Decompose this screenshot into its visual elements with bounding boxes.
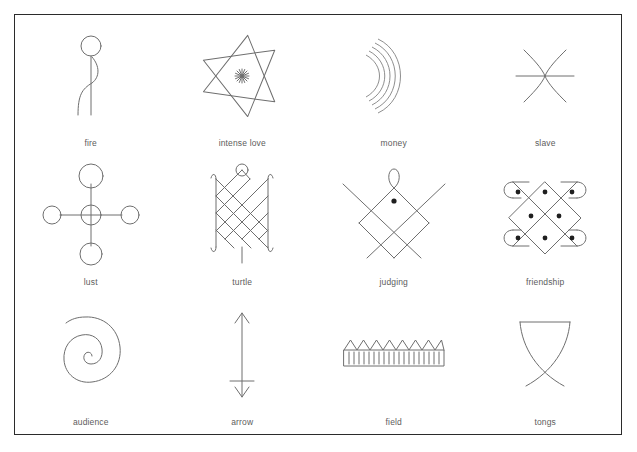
symbol-label: audience: [73, 416, 109, 430]
money-icon: [318, 15, 470, 137]
slave-icon: [470, 15, 622, 137]
arrow-icon: [167, 294, 319, 416]
symbol-label: slave: [535, 137, 556, 151]
symbol-label: lust: [84, 276, 98, 290]
symbol-cell-arrow: arrow: [167, 294, 319, 434]
symbol-label: intense love: [219, 137, 266, 151]
field-icon: [318, 294, 470, 416]
symbol-label: tongs: [534, 416, 556, 430]
symbol-cell-intense-love: intense love: [167, 15, 319, 155]
symbol-label: arrow: [231, 416, 253, 430]
fire-icon: [15, 15, 167, 137]
audience-icon: [15, 294, 167, 416]
symbol-grid: fire: [15, 15, 621, 434]
symbol-label: turtle: [232, 276, 252, 290]
symbol-cell-money: money: [318, 15, 470, 155]
symbol-label: friendship: [526, 276, 564, 290]
intense-love-icon: [167, 15, 319, 137]
symbol-cell-judging: judging: [318, 155, 470, 295]
turtle-icon: [167, 155, 319, 277]
lust-icon: [15, 155, 167, 277]
symbol-cell-friendship: friendship: [470, 155, 622, 295]
symbol-cell-turtle: turtle: [167, 155, 319, 295]
symbol-cell-audience: audience: [15, 294, 167, 434]
symbol-label: judging: [380, 276, 408, 290]
symbol-cell-tongs: tongs: [470, 294, 622, 434]
symbol-cell-slave: slave: [470, 15, 622, 155]
sheet-border: fire: [14, 14, 622, 435]
symbol-sheet: fire: [0, 0, 637, 452]
symbol-cell-field: field: [318, 294, 470, 434]
symbol-label: money: [381, 137, 407, 151]
symbol-cell-lust: lust: [15, 155, 167, 295]
symbol-cell-fire: fire: [15, 15, 167, 155]
tongs-icon: [470, 294, 622, 416]
friendship-icon: [470, 155, 622, 277]
judging-icon: [318, 155, 470, 277]
symbol-label: field: [386, 416, 402, 430]
symbol-label: fire: [85, 137, 97, 151]
